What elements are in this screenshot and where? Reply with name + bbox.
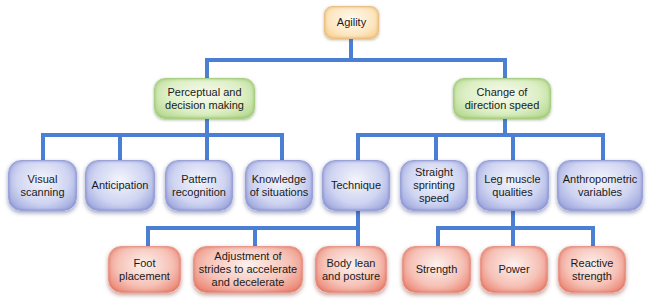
node-anticipation: Anticipation bbox=[85, 160, 155, 211]
node-pattern-recognition: Pattern recognition bbox=[165, 160, 233, 211]
node-body-lean-and-posture: Body lean and posture bbox=[315, 246, 387, 293]
node-foot-placement: Foot placement bbox=[108, 246, 181, 293]
node-adjustment-of-strides: Adjustment of strides to accelerate and … bbox=[193, 246, 303, 293]
node-straight-sprinting-speed: Straight sprinting speed bbox=[400, 160, 468, 211]
node-perceptual-decision-making: Perceptual and decision making bbox=[154, 78, 255, 119]
node-agility: Agility bbox=[324, 6, 379, 39]
node-visual-scanning: Visual scanning bbox=[8, 160, 77, 211]
node-reactive-strength: Reactive strength bbox=[558, 246, 626, 293]
node-change-of-direction-speed: Change of direction speed bbox=[453, 78, 551, 119]
node-anthropometric-variables: Anthropometric variables bbox=[557, 160, 643, 211]
node-power: Power bbox=[480, 246, 548, 293]
node-strength: Strength bbox=[402, 246, 471, 293]
node-technique: Technique bbox=[322, 160, 390, 211]
node-leg-muscle-qualities: Leg muscle qualities bbox=[476, 160, 549, 211]
agility-hierarchy-diagram: Agility Perceptual and decision making C… bbox=[0, 0, 652, 302]
node-knowledge-of-situations: Knowledge of situations bbox=[245, 160, 313, 211]
